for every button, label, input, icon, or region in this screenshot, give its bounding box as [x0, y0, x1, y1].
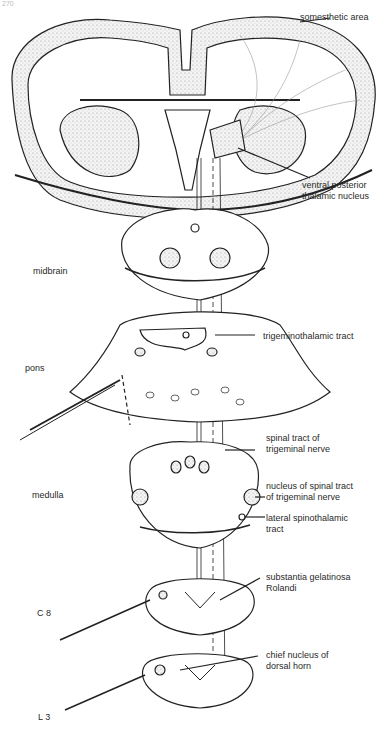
annotation-chief-nucleus: chief nucleus of dorsal horn — [266, 650, 329, 672]
c8-section — [60, 579, 254, 640]
annotation-trigeminothalamic-tract: trigeminothalamic tract — [263, 331, 354, 342]
annotation-somesthetic-area: somesthetic area — [300, 12, 369, 23]
annotation-substantia-gelatinosa: substantia gelatinosa Rolandi — [266, 572, 351, 594]
level-label-pons: pons — [25, 363, 45, 374]
neuroanatomy-diagram — [0, 0, 385, 738]
level-label-midbrain: midbrain — [33, 266, 68, 277]
annotation-lateral-spinothalamic-tract: lateral spinothalamic tract — [266, 513, 348, 535]
level-label-l3: L 3 — [38, 712, 50, 723]
annotation-spinal-tract-of-trigeminal-nerve: spinal tract of trigeminal nerve — [266, 433, 330, 455]
annotation-nucleus-of-spinal-tract: nucleus of spinal tract of trigeminal ne… — [266, 481, 353, 503]
level-label-medulla: medulla — [32, 490, 64, 501]
level-label-c8: C 8 — [37, 608, 51, 619]
annotation-ventral-posterior-thalamic-nucleus: ventral posterior thalamic nucleus — [302, 180, 369, 202]
medulla-section — [130, 442, 260, 548]
midbrain-section — [122, 209, 269, 300]
